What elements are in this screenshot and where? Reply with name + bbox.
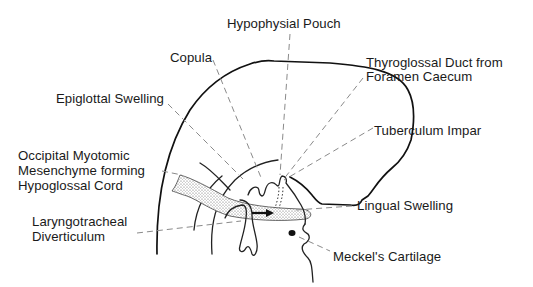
meckels-cartilage-dot	[289, 230, 296, 236]
leader-tuberculum	[284, 128, 373, 180]
label-meckels-cartilage: Meckel's Cartilage	[333, 249, 441, 264]
label-thyroglossal-1: Thyroglossal Duct from	[366, 55, 503, 70]
leader-thyroglossal	[283, 78, 363, 180]
label-occipital-2: Mesenchyme forming	[18, 163, 145, 178]
leader-hypophysial	[280, 34, 290, 175]
label-tuberculum-impar: Tuberculum Impar	[374, 123, 481, 138]
label-occipital-3: Hypoglossal Cord	[18, 178, 123, 193]
thyroglossal-duct-2	[279, 187, 283, 208]
label-thyroglossal-2: Foramen Caecum	[366, 69, 472, 84]
label-laryngotracheal-1: Laryngotracheal	[32, 214, 127, 229]
label-occipital-1: Occipital Myotomic	[18, 148, 130, 163]
label-epiglottal-swelling: Epiglottal Swelling	[56, 91, 164, 106]
label-lingual-swelling: Lingual Swelling	[357, 198, 453, 213]
leader-laryngo	[137, 221, 241, 233]
label-laryngotracheal-2: Diverticulum	[32, 229, 105, 244]
thyroglossal-duct	[275, 187, 279, 208]
label-hypophysial-pouch: Hypophysial Pouch	[227, 16, 341, 31]
leader-epiglottal	[168, 104, 244, 180]
label-copula: Copula	[170, 50, 212, 65]
lower-jaw-outline	[302, 224, 313, 282]
head-outline	[157, 60, 414, 254]
hypoglossal-cord	[172, 175, 311, 220]
